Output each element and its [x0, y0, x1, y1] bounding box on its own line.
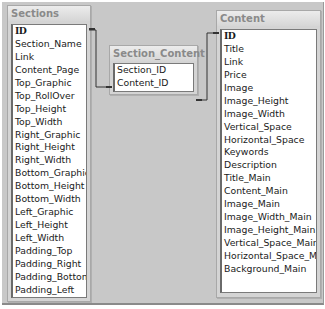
relationship-line-section-content-content[interactable]: [0, 0, 325, 309]
